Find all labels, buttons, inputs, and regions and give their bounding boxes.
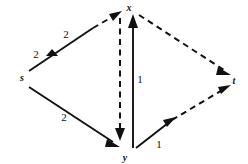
- edge-s-to-y-line: [29, 87, 113, 142]
- edge-x-to-y-end-arrowhead: [115, 128, 125, 141]
- edge-weight-s-to-x-upper: 2: [63, 28, 69, 40]
- edge-s-to-y: [29, 87, 120, 147]
- edge-y-to-t-dashed-segment: [172, 89, 224, 120]
- edge-x-to-y: [115, 18, 125, 141]
- node-label-x: x: [126, 2, 132, 13]
- node-label-y: y: [122, 152, 128, 163]
- edge-x-to-t-end-arrowhead: [216, 67, 231, 75]
- node-label-t: t: [233, 75, 237, 86]
- edge-s-to-y-end-arrowhead: [105, 139, 120, 147]
- edge-s-to-x: [29, 11, 122, 71]
- edge-y-to-t-end-arrowhead: [218, 85, 231, 94]
- edge-y-to-x-end-arrowhead: [128, 14, 138, 28]
- edge-weight-y-to-t: 1: [156, 138, 162, 150]
- edge-weight-s-to-y: 2: [61, 111, 67, 123]
- graph-canvas: s x y t 2 2 2 1 1: [0, 0, 248, 164]
- flow-network-diagram: s x y t 2 2 2 1 1: [0, 0, 248, 164]
- edge-weight-s-to-x-lower: 2: [33, 48, 39, 60]
- edge-weight-y-to-x: 1: [137, 73, 143, 85]
- node-label-s: s: [19, 72, 24, 83]
- edge-x-to-t: [139, 15, 231, 75]
- edge-x-to-t-line: [139, 15, 224, 70]
- edge-y-to-t: [136, 85, 231, 148]
